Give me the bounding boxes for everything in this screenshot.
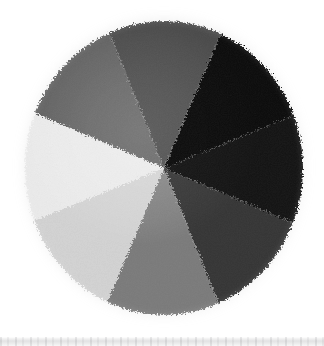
photo-panel <box>0 0 324 330</box>
partial-image-strip <box>0 337 324 346</box>
figure-root: Circular specimen divided into eight pie… <box>0 0 324 346</box>
disc-svg <box>24 20 304 316</box>
eight-wedge-gray-disc <box>24 20 304 316</box>
panel-gap <box>0 330 324 337</box>
strip-texture <box>0 337 324 346</box>
grain-overlay <box>24 20 304 316</box>
